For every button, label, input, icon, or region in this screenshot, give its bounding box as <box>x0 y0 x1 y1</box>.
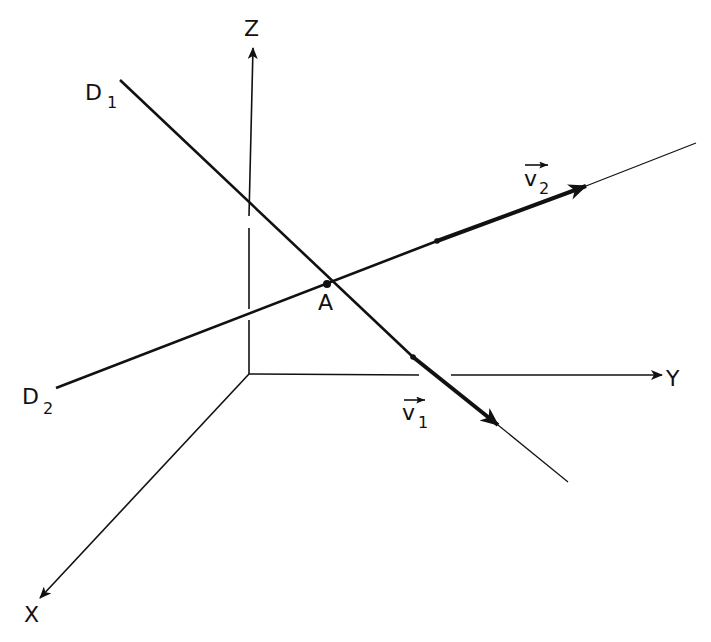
x-axis-arrow <box>40 374 249 598</box>
vector-v2: v 2 <box>434 165 586 244</box>
line-d2-body <box>56 241 437 388</box>
line-d2-label: D <box>22 384 39 409</box>
vector-v1-origin-dot <box>410 354 416 360</box>
y-axis: Y <box>249 366 680 391</box>
line-d1-body <box>120 80 413 357</box>
x-axis-label: X <box>24 602 39 627</box>
z-axis-arrow <box>249 48 253 216</box>
line-d2-tail <box>586 143 696 186</box>
intersection-dot <box>323 280 331 288</box>
line-d1-tail <box>498 425 568 482</box>
vector-v2-arrow <box>437 186 586 241</box>
line-d1-label: D <box>85 80 102 105</box>
vector-v2-origin-dot <box>434 238 440 244</box>
vector-v1-label: v <box>402 400 415 425</box>
diagram-canvas: Z Y X D 1 D 2 <box>0 0 711 642</box>
intersection-label: A <box>318 290 333 315</box>
vector-v2-subscript: 2 <box>539 179 549 198</box>
y-axis-label: Y <box>665 366 680 391</box>
vector-v1: v 1 <box>402 354 498 432</box>
y-axis-segment <box>249 374 419 375</box>
x-axis: X <box>24 374 249 627</box>
line-d1-subscript: 1 <box>107 93 117 112</box>
diagram-svg: Z Y X D 1 D 2 <box>0 0 711 642</box>
line-d2: D 2 <box>22 143 696 418</box>
line-d2-subscript: 2 <box>43 399 53 418</box>
z-axis-label: Z <box>244 16 259 41</box>
vector-v2-label: v <box>524 166 537 191</box>
vector-v1-subscript: 1 <box>418 413 428 432</box>
z-axis: Z <box>244 16 259 374</box>
